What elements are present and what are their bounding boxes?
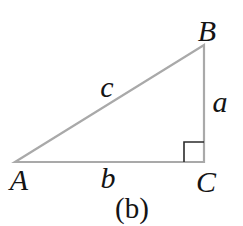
figure-caption: (b) [115,192,149,225]
vertex-label-a-upper: A [8,163,29,196]
vertex-label-c-upper: C [196,165,217,198]
vertex-label-b-upper: B [198,14,216,47]
right-triangle-figure: A B C a b c (b) [0,0,243,226]
triangle-diagram-canvas: A B C a b c (b) [0,0,243,226]
side-label-b: b [101,161,116,194]
side-label-a: a [213,85,228,118]
triangle-outline [15,45,204,162]
right-angle-marker [184,142,204,162]
side-label-c: c [100,70,113,103]
